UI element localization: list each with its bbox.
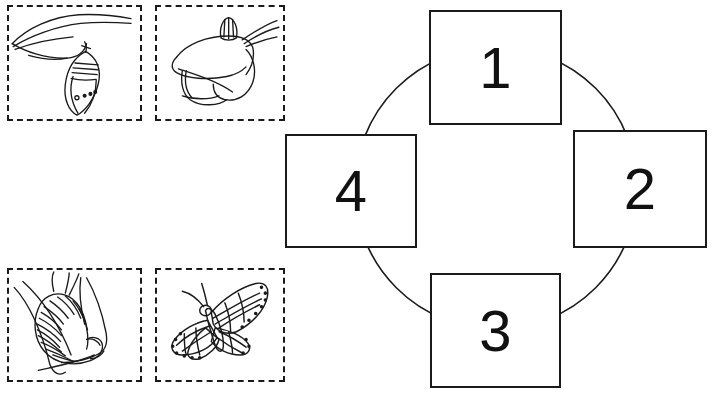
- caterpillar-icon: [9, 270, 140, 380]
- cutout-card-caterpillar[interactable]: [7, 268, 142, 382]
- worksheet-page: 1 2 3 4: [0, 0, 715, 402]
- life-cycle-diagram: 1 2 3 4: [280, 0, 715, 402]
- cycle-box-2[interactable]: 2: [573, 130, 707, 248]
- chrysalis-icon: [9, 7, 140, 119]
- egg-on-leaf-icon: [157, 7, 283, 119]
- cycle-box-3-number: 3: [479, 302, 511, 360]
- cycle-box-1-number: 1: [479, 39, 511, 97]
- cycle-box-2-number: 2: [624, 160, 656, 218]
- cycle-box-4-number: 4: [335, 162, 367, 220]
- cycle-box-1[interactable]: 1: [429, 10, 562, 125]
- cycle-box-4[interactable]: 4: [285, 134, 417, 248]
- cutout-card-chrysalis[interactable]: [7, 5, 142, 121]
- cutout-card-egg[interactable]: [155, 5, 285, 121]
- butterfly-icon: [157, 270, 283, 380]
- cutout-card-butterfly[interactable]: [155, 268, 285, 382]
- cycle-box-3[interactable]: 3: [430, 273, 561, 388]
